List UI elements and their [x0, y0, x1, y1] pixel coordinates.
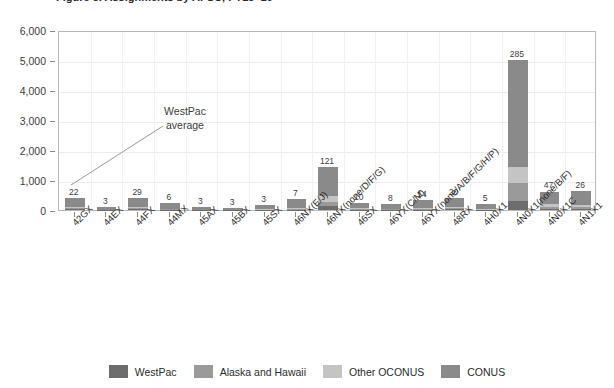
y-axis-tick-label: 3,000 — [0, 115, 46, 127]
gridline-vertical — [249, 32, 250, 210]
annotation-line-1: WestPac — [140, 104, 230, 118]
bar-value-label: 8 — [388, 193, 393, 203]
y-axis-tick-label: 0 — [0, 205, 46, 217]
y-axis-tick-mark — [50, 61, 55, 62]
legend-item[interactable]: Other OCONUS — [323, 365, 424, 378]
gridline-vertical — [502, 32, 503, 210]
bar-value-label: 285 — [510, 49, 524, 59]
y-axis-tick-mark — [50, 121, 55, 122]
bar-value-label: 121 — [320, 156, 334, 166]
bar-value-label: 7 — [293, 188, 298, 198]
y-axis-tick-label: 6,000 — [0, 25, 46, 37]
legend-swatch — [109, 365, 128, 378]
bar-value-label: 22 — [69, 187, 78, 197]
gridline-vertical — [344, 32, 345, 210]
legend-swatch — [194, 365, 213, 378]
legend-swatch — [441, 365, 460, 378]
y-axis-tick-mark — [50, 181, 55, 182]
annotation-line-2: average — [140, 118, 230, 132]
legend-item[interactable]: WestPac — [109, 365, 177, 378]
bar-value-label: 29 — [132, 187, 141, 197]
chart-title: Figure 5. Assignments by AFSC, FY15–19 — [56, 0, 273, 3]
bar-segment-other-oconus — [508, 167, 528, 183]
bar-value-label: 3 — [261, 194, 266, 204]
gridline-vertical — [470, 32, 471, 210]
gridline-vertical — [281, 32, 282, 210]
chart-legend: WestPacAlaska and HawaiiOther OCONUSCONU… — [0, 365, 614, 378]
legend-swatch — [323, 365, 342, 378]
chart-container: Figure 5. Assignments by AFSC, FY15–19 0… — [0, 0, 614, 388]
bar-value-label: 3 — [103, 196, 108, 206]
bar-segment-conus — [508, 60, 528, 167]
bar-segment-conus — [65, 198, 85, 207]
gridline-vertical — [375, 32, 376, 210]
gridline-vertical — [439, 32, 440, 210]
legend-label: CONUS — [467, 366, 505, 378]
gridline-vertical — [565, 32, 566, 210]
bar-value-label: 6 — [166, 192, 171, 202]
y-axis-tick-label: 4,000 — [0, 85, 46, 97]
y-axis-tick-label: 5,000 — [0, 55, 46, 67]
y-axis-tick-mark — [50, 31, 55, 32]
bar-value-label: 3 — [230, 197, 235, 207]
y-axis-tick-mark — [50, 211, 55, 212]
legend-item[interactable]: CONUS — [441, 365, 505, 378]
legend-item[interactable]: Alaska and Hawaii — [194, 365, 306, 378]
legend-label: Alaska and Hawaii — [220, 366, 306, 378]
bar-segment-conus — [128, 198, 148, 207]
y-axis-tick-mark — [50, 91, 55, 92]
y-axis-tick-label: 2,000 — [0, 145, 46, 157]
gridline-vertical — [407, 32, 408, 210]
y-axis-tick-label: 1,000 — [0, 175, 46, 187]
y-axis-tick-mark — [50, 151, 55, 152]
legend-label: WestPac — [135, 366, 177, 378]
bar-value-label: 3 — [198, 196, 203, 206]
legend-label: Other OCONUS — [349, 366, 424, 378]
bar-segment-alaska-and-hawaii — [508, 183, 528, 202]
bar[interactable] — [508, 60, 528, 210]
gridline-vertical — [312, 32, 313, 210]
bar-value-label: 5 — [483, 193, 488, 203]
gridline-vertical — [534, 32, 535, 210]
annotation-westpac-average: WestPac average — [140, 104, 230, 132]
bar-value-label: 26 — [575, 180, 584, 190]
